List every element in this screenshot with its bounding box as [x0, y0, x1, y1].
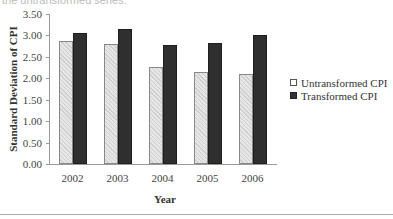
- legend: Untransformed CPI Transformed CPI: [290, 76, 387, 102]
- bar-transformed-2005: [208, 43, 222, 164]
- legend-swatch-dark: [290, 92, 297, 99]
- y-tick-label: 1.00: [0, 115, 42, 127]
- y-tick-label: 3.00: [0, 29, 42, 41]
- legend-swatch-light: [290, 79, 297, 86]
- bar-transformed-2006: [253, 35, 267, 164]
- caption-fragment: the untransformed series.: [2, 0, 127, 6]
- legend-label: Untransformed CPI: [301, 77, 387, 89]
- x-tick-label: 2003: [98, 172, 138, 184]
- x-tick-label: 2004: [143, 172, 183, 184]
- y-tick-label: 2.50: [0, 51, 42, 63]
- y-axis-label: Standard Deviation of CPI: [7, 26, 19, 152]
- x-tick-label: 2005: [188, 172, 228, 184]
- x-axis-label: Year: [140, 193, 190, 205]
- bar-transformed-2002: [73, 33, 87, 164]
- legend-label: Transformed CPI: [301, 90, 377, 102]
- y-tick-label: 3.50: [0, 8, 42, 20]
- legend-item-transformed: Transformed CPI: [290, 89, 387, 102]
- legend-item-untransformed: Untransformed CPI: [290, 76, 387, 89]
- x-tick-label: 2006: [233, 172, 273, 184]
- bar-untransformed-2006: [239, 74, 253, 164]
- bar-untransformed-2005: [194, 72, 208, 164]
- bar-untransformed-2002: [59, 41, 73, 164]
- y-tick-label: 1.50: [0, 94, 42, 106]
- y-tick-label: 0.00: [0, 158, 42, 170]
- bar-transformed-2004: [163, 45, 177, 164]
- y-axis-line: [49, 14, 50, 165]
- bar-transformed-2003: [118, 29, 132, 164]
- y-tick-label: 0.50: [0, 137, 42, 149]
- y-tick-label: 2.00: [0, 72, 42, 84]
- x-axis-line: [49, 164, 277, 165]
- horizontal-rule: [0, 214, 393, 215]
- x-tick-label: 2002: [53, 172, 93, 184]
- bar-untransformed-2004: [149, 67, 163, 164]
- bar-untransformed-2003: [104, 44, 118, 164]
